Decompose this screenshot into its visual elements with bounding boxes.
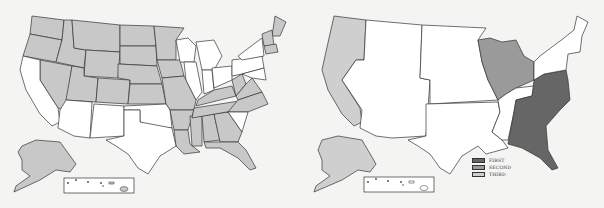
state-ms xyxy=(190,116,202,146)
map-legend: FIRST SECOND THIRD xyxy=(472,157,511,179)
state-co xyxy=(96,78,130,104)
state-mi xyxy=(196,40,222,70)
map-right-svg xyxy=(302,0,604,208)
legend-item-first: FIRST xyxy=(472,157,511,164)
us-regions-map-right xyxy=(302,0,604,208)
state-nh-vt xyxy=(262,30,274,46)
legend-item-third: THIRD xyxy=(472,172,511,179)
state-az xyxy=(58,100,92,138)
state-sd xyxy=(120,46,157,66)
legend-swatch-second xyxy=(472,165,485,170)
legend-swatch-third xyxy=(472,172,485,177)
state-nm xyxy=(90,104,124,138)
state-wy xyxy=(84,50,120,78)
legend-label-second: SECOND xyxy=(489,165,511,170)
legend-label-third: THIRD xyxy=(489,172,506,177)
state-mt xyxy=(72,20,120,52)
map-left-svg xyxy=(0,0,302,208)
state-ks xyxy=(128,84,166,104)
state-ny xyxy=(238,38,264,60)
state-nd xyxy=(120,25,156,46)
state-ia xyxy=(157,60,184,78)
us-states-map-left xyxy=(0,0,302,208)
state-me xyxy=(272,16,286,36)
state-fl xyxy=(204,142,256,170)
state-ma-ct-ri xyxy=(264,44,278,54)
legend-swatch-first xyxy=(472,158,485,163)
region-northeast xyxy=(534,16,588,80)
state-oh xyxy=(212,66,232,88)
legend-item-second: SECOND xyxy=(472,164,511,171)
state-in xyxy=(202,70,214,94)
state-wi xyxy=(176,38,196,62)
legend-label-first: FIRST xyxy=(489,158,504,163)
